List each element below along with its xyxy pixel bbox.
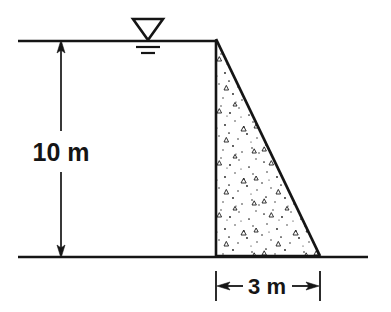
water-table-triangle-icon (133, 19, 163, 40)
width-dimension-label: 3 m (248, 274, 286, 299)
engineering-diagram-figure: 10 m 3 m (0, 0, 391, 312)
height-dimension: 10 m (33, 40, 90, 258)
retaining-wall-body (216, 39, 320, 256)
width-dimension: 3 m (216, 271, 320, 301)
diagram-canvas: 10 m 3 m (0, 0, 391, 312)
water-table-symbol (133, 19, 163, 53)
height-dimension-label: 10 m (33, 138, 90, 166)
